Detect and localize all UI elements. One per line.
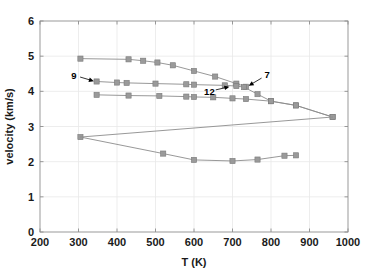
- series-line: [80, 59, 246, 87]
- data-point-marker: [230, 96, 235, 101]
- x-tick-label: 500: [146, 236, 164, 248]
- grid-layer: [40, 21, 348, 232]
- data-point-marker: [293, 103, 298, 108]
- data-point-marker: [268, 99, 273, 104]
- x-tick-label: 400: [108, 236, 126, 248]
- x-tick-label: 800: [262, 236, 280, 248]
- series-layer: [78, 56, 335, 164]
- y-tick-label: 4: [28, 85, 35, 97]
- data-point-marker: [213, 74, 218, 79]
- data-point-marker: [191, 82, 196, 87]
- x-tick-label: 300: [69, 236, 87, 248]
- annotation-label-7: 7: [265, 69, 270, 80]
- data-point-marker: [255, 157, 260, 162]
- annotation-7: 7: [249, 69, 270, 85]
- data-point-marker: [126, 57, 131, 62]
- annotation-arrow-head: [249, 81, 254, 86]
- data-point-marker: [155, 60, 160, 65]
- x-axis-title: T (K): [181, 256, 206, 268]
- data-point-marker: [184, 94, 189, 99]
- series-line: [80, 137, 296, 161]
- x-tick-label: 900: [300, 236, 318, 248]
- annotations-layer: 9127: [71, 69, 270, 97]
- annotation-label-12: 12: [204, 86, 215, 97]
- y-tick-label: 5: [28, 50, 34, 62]
- data-point-marker: [153, 81, 158, 86]
- y-tick-label: 1: [28, 191, 34, 203]
- x-tick-label: 1000: [336, 236, 360, 248]
- data-point-marker: [124, 80, 129, 85]
- annotation-9: 9: [71, 70, 94, 82]
- series-line: [80, 117, 332, 137]
- data-point-marker: [293, 153, 298, 158]
- data-point-marker: [78, 56, 83, 61]
- data-point-marker: [255, 92, 260, 97]
- data-point-marker: [243, 96, 248, 101]
- data-point-marker: [141, 58, 146, 63]
- line-chart: 20030040050060070080090010000123456 9127…: [0, 0, 388, 274]
- series-lower-branch: [78, 134, 299, 163]
- data-point-marker: [94, 92, 99, 97]
- data-point-marker: [184, 82, 189, 87]
- annotation-arrow-head: [224, 86, 229, 90]
- data-point-marker: [157, 93, 162, 98]
- data-point-marker: [282, 153, 287, 158]
- data-point-marker: [94, 79, 99, 84]
- data-point-marker: [170, 63, 175, 68]
- x-tick-label: 600: [185, 236, 203, 248]
- data-point-marker: [230, 158, 235, 163]
- y-tick-label: 3: [28, 121, 34, 133]
- y-tick-label: 0: [28, 226, 34, 238]
- series-connector-branch: [80, 117, 332, 137]
- data-point-marker: [114, 80, 119, 85]
- annotation-arrow-head: [88, 78, 93, 82]
- y-tick-label: 2: [28, 156, 34, 168]
- figure-container: 20030040050060070080090010000123456 9127…: [0, 0, 388, 274]
- data-point-marker: [191, 94, 196, 99]
- data-point-marker: [241, 85, 246, 90]
- data-point-marker: [161, 151, 166, 156]
- annotation-label-9: 9: [71, 70, 76, 81]
- x-tick-label: 700: [223, 236, 241, 248]
- data-point-marker: [234, 83, 239, 88]
- data-point-marker: [191, 68, 196, 73]
- data-point-marker: [191, 157, 196, 162]
- y-tick-label: 6: [28, 15, 34, 27]
- y-axis-title: velocity (km/s): [3, 88, 15, 165]
- data-point-marker: [126, 93, 131, 98]
